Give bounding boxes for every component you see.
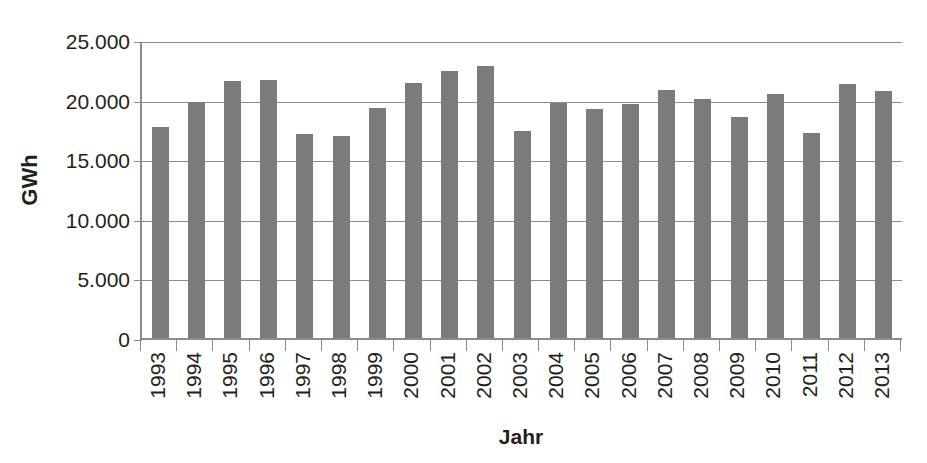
x-axis-tick-mark bbox=[574, 340, 575, 351]
bar bbox=[224, 81, 241, 340]
x-axis-tick-mark bbox=[791, 340, 792, 351]
bar bbox=[296, 134, 313, 340]
x-axis-tick-labels: 1993199419951996199719981999200020012002… bbox=[140, 352, 902, 424]
bar bbox=[152, 127, 169, 340]
x-axis-tick-mark bbox=[864, 340, 865, 351]
y-axis-tick-mark bbox=[134, 42, 142, 43]
y-axis-tick-label: 25.000 bbox=[66, 30, 130, 54]
y-axis-tick-labels: 05.00010.00015.00020.00025.000 bbox=[48, 0, 140, 360]
x-axis-tick-mark bbox=[430, 340, 431, 351]
x-axis-tick-mark bbox=[647, 340, 648, 351]
bar bbox=[694, 99, 711, 340]
y-axis-tick-label: 15.000 bbox=[66, 149, 130, 173]
bar bbox=[550, 103, 567, 340]
x-axis-tick-mark bbox=[828, 340, 829, 351]
bar bbox=[188, 102, 205, 340]
x-axis-tick-mark bbox=[357, 340, 358, 351]
bar bbox=[333, 136, 350, 340]
x-axis-tick-mark bbox=[285, 340, 286, 351]
x-axis-tick-mark bbox=[900, 340, 901, 351]
x-axis-tick-mark bbox=[502, 340, 503, 351]
bar bbox=[514, 131, 531, 340]
plot-area bbox=[140, 42, 902, 340]
x-axis-tick-mark bbox=[321, 340, 322, 351]
bar bbox=[369, 108, 386, 340]
bar bbox=[839, 84, 856, 340]
y-axis-title-text: GWh bbox=[17, 154, 43, 205]
x-axis-tick-marks bbox=[140, 340, 902, 352]
x-axis-tick-mark bbox=[538, 340, 539, 351]
bar bbox=[875, 91, 892, 340]
x-axis-tick-mark bbox=[466, 340, 467, 351]
x-axis-tick-mark bbox=[176, 340, 177, 351]
y-axis-tick-label: 5.000 bbox=[77, 268, 130, 292]
x-axis-tick-label: 2013 bbox=[846, 352, 918, 424]
bar bbox=[622, 104, 639, 340]
x-axis-tick-mark bbox=[212, 340, 213, 351]
y-axis-tick-label: 0 bbox=[118, 328, 130, 352]
bar bbox=[441, 71, 458, 340]
bar bbox=[803, 133, 820, 340]
y-axis-tick-mark bbox=[134, 280, 142, 281]
x-axis-tick-mark bbox=[755, 340, 756, 351]
bars-layer bbox=[142, 42, 902, 340]
bar bbox=[586, 109, 603, 340]
x-axis-tick-mark bbox=[249, 340, 250, 351]
bar bbox=[260, 80, 277, 340]
bar bbox=[767, 94, 784, 340]
y-axis-tick-label: 20.000 bbox=[66, 90, 130, 114]
x-axis-tick-label-text: 2013 bbox=[870, 352, 894, 399]
bar bbox=[658, 90, 675, 340]
bar bbox=[731, 117, 748, 340]
x-axis-tick-mark bbox=[719, 340, 720, 351]
bar bbox=[405, 83, 422, 340]
x-axis-tick-mark bbox=[610, 340, 611, 351]
y-axis-tick-mark bbox=[134, 102, 142, 103]
bar bbox=[477, 66, 494, 340]
y-axis-tick-label: 10.000 bbox=[66, 209, 130, 233]
y-axis-tick-mark bbox=[134, 221, 142, 222]
x-axis-tick-mark bbox=[140, 340, 141, 351]
x-axis-tick-mark bbox=[683, 340, 684, 351]
y-axis-tick-mark bbox=[134, 161, 142, 162]
x-axis-title: Jahr bbox=[140, 425, 902, 449]
bar-chart: GWh 05.00010.00015.00020.00025.000 19931… bbox=[0, 0, 927, 463]
x-axis-tick-mark bbox=[393, 340, 394, 351]
